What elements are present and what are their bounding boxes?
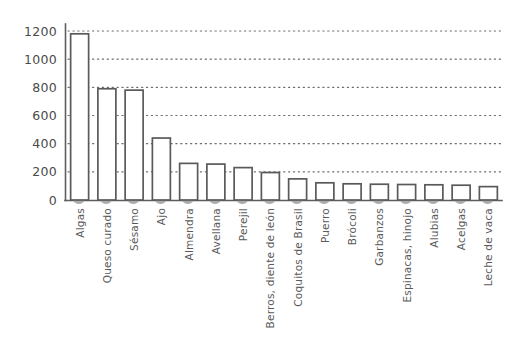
x-axis-tick-label: Leche de vaca [482,208,494,286]
x-axis-tick-label: Puerro [319,208,331,243]
bar[interactable] [425,185,443,200]
bar[interactable] [343,184,361,200]
x-axis-tick-label: Sésamo [128,208,140,251]
chart-canvas: 020040060080010001200 AlgasQueso curadoS… [0,0,529,357]
bar[interactable] [152,138,170,200]
bar[interactable] [370,184,388,200]
bar[interactable] [452,185,470,200]
y-axis-tick-label: 600 [32,108,57,123]
bar[interactable] [71,34,89,200]
x-axis-tick-label: Coquitos de Brasil [292,208,304,307]
bar-chart: 020040060080010001200 AlgasQueso curadoS… [0,0,529,357]
y-axis-tick-label: 0 [49,193,57,208]
x-axis-tick-label: Brócoli [346,208,358,245]
x-axis-tick-label: Acelgas [455,208,467,250]
y-axis-tick-labels: 020040060080010001200 [24,24,57,208]
y-axis-tick-label: 400 [32,136,57,151]
x-axis-tick-label: Almendra [183,208,195,260]
x-axis-tick-label: Berros, diente de león [264,208,276,328]
bar[interactable] [125,90,143,200]
x-axis-tick-label: Garbanzos [373,208,385,266]
bar[interactable] [261,173,279,200]
x-axis-tick-label: Alubias [428,208,440,248]
x-axis-tick-label: Espinacas, hinojo [401,208,413,303]
bar[interactable] [234,168,252,200]
x-axis-tick-label: Ajo [155,208,167,225]
y-axis-tick-label: 1000 [24,52,57,67]
bar[interactable] [316,183,334,200]
x-axis-tick-label: Avellana [210,208,222,254]
y-axis-tick-label: 1200 [24,24,57,39]
x-axis-tick-labels: AlgasQueso curadoSésamoAjoAlmendraAvella… [74,208,495,328]
bar[interactable] [289,179,307,200]
x-axis-tick-label: Algas [74,208,86,238]
bar[interactable] [398,185,416,200]
x-axis-tick-label: Perejil [237,208,249,241]
x-axis-tick-label: Queso curado [101,208,113,283]
bar[interactable] [180,163,198,200]
bar[interactable] [98,89,116,200]
y-axis-tick-label: 200 [32,164,57,179]
y-axis-tick-label: 800 [32,80,57,95]
bar[interactable] [479,187,497,200]
bar[interactable] [207,164,225,200]
